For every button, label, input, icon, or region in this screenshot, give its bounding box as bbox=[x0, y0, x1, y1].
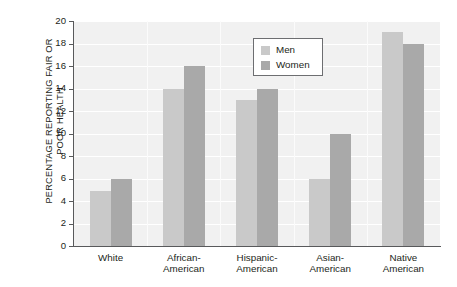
x-axis-category-label-line: American bbox=[220, 263, 293, 274]
legend-label-women: Women bbox=[276, 60, 310, 70]
x-axis-category-label-line: White bbox=[74, 252, 147, 263]
y-axis-tick bbox=[69, 224, 73, 225]
legend: Men Women bbox=[253, 38, 323, 76]
y-axis-tick-label: 8 bbox=[44, 151, 66, 161]
x-axis-category-label: White bbox=[74, 252, 147, 263]
bar-chart-figure: PERCENTAGE REPORTING FAIR OR POOR HEALTH… bbox=[0, 0, 457, 287]
y-axis-tick bbox=[69, 179, 73, 180]
legend-swatch-men-icon bbox=[261, 46, 270, 55]
bar-men bbox=[90, 191, 111, 246]
bar-men bbox=[382, 32, 403, 246]
y-axis-tick bbox=[69, 201, 73, 202]
gridline-horizontal bbox=[74, 21, 440, 22]
x-axis-line bbox=[73, 246, 441, 247]
y-axis-tick-label: 14 bbox=[44, 83, 66, 93]
legend-entry-men: Men bbox=[261, 43, 295, 57]
bar-men bbox=[163, 89, 184, 247]
y-axis-tick-labels: 02468101214161820 bbox=[42, 0, 66, 287]
x-axis-category-label: Asian-American bbox=[294, 252, 367, 275]
y-axis-tick-label: 10 bbox=[44, 128, 66, 138]
x-axis-category-label-line: Hispanic- bbox=[220, 252, 293, 263]
legend-label-men: Men bbox=[276, 45, 295, 55]
x-axis-category-label: African-American bbox=[147, 252, 220, 275]
x-axis-category-label: NativeAmerican bbox=[367, 252, 440, 275]
gridline-vertical bbox=[367, 21, 368, 246]
bar-women bbox=[111, 179, 132, 247]
x-axis-category-label-line: American bbox=[294, 263, 367, 274]
y-axis-tick-label: 20 bbox=[44, 16, 66, 26]
y-axis-tick bbox=[69, 246, 73, 247]
y-axis-tick-label: 16 bbox=[44, 61, 66, 71]
x-axis-category-label-line: Asian- bbox=[294, 252, 367, 263]
y-axis-tick-label: 18 bbox=[44, 38, 66, 48]
y-axis-tick bbox=[69, 156, 73, 157]
y-axis-tick bbox=[69, 21, 73, 22]
gridline-vertical bbox=[220, 21, 221, 246]
y-axis-tick bbox=[69, 134, 73, 135]
x-axis-category-label-line: American bbox=[147, 263, 220, 274]
bar-women bbox=[403, 44, 424, 247]
bar-men bbox=[309, 179, 330, 247]
y-axis-tick bbox=[69, 89, 73, 90]
y-axis-tick bbox=[69, 111, 73, 112]
x-axis-category-label-line: African- bbox=[147, 252, 220, 263]
x-axis-category-label: Hispanic-American bbox=[220, 252, 293, 275]
y-axis-tick-label: 6 bbox=[44, 173, 66, 183]
y-axis-line bbox=[73, 21, 74, 247]
y-axis-tick-label: 2 bbox=[44, 218, 66, 228]
bar-women bbox=[330, 134, 351, 247]
legend-swatch-women-icon bbox=[261, 61, 270, 70]
y-axis-tick bbox=[69, 44, 73, 45]
x-axis-category-label-line: Native bbox=[367, 252, 440, 263]
y-axis-tick-label: 0 bbox=[44, 241, 66, 251]
gridline-vertical bbox=[147, 21, 148, 246]
y-axis-tick-label: 4 bbox=[44, 196, 66, 206]
bar-women bbox=[184, 66, 205, 246]
bar-men bbox=[236, 100, 257, 246]
y-axis-tick-label: 12 bbox=[44, 106, 66, 116]
y-axis-tick bbox=[69, 66, 73, 67]
legend-entry-women: Women bbox=[261, 58, 310, 72]
bar-women bbox=[257, 89, 278, 247]
x-axis-category-label-line: American bbox=[367, 263, 440, 274]
